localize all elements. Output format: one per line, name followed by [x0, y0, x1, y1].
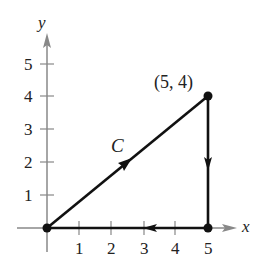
- plot-svg: [0, 0, 265, 267]
- vertex-5-4: [204, 92, 213, 101]
- y-tick-label: 3: [24, 121, 33, 138]
- y-axis: [40, 33, 54, 252]
- y-tick-label: 2: [24, 154, 33, 171]
- vertex-5-0: [204, 224, 213, 233]
- vertex-origin: [43, 224, 52, 233]
- x-axis-label: x: [242, 218, 250, 235]
- y-tick-label: 5: [24, 56, 33, 73]
- y-tick-label: 4: [24, 88, 33, 105]
- x-tick-label: 2: [107, 240, 116, 257]
- y-axis-label: y: [38, 14, 46, 31]
- curve-label: C: [111, 136, 124, 155]
- point-label: (5, 4): [154, 73, 193, 91]
- x-tick-label: 4: [171, 240, 180, 257]
- x-tick-label: 5: [204, 240, 213, 257]
- diagram-canvas: y x 1 2 3 4 5 1 2 3 4 5 C (5, 4): [0, 0, 265, 267]
- y-tick-label: 1: [24, 187, 33, 204]
- x-tick-label: 3: [140, 240, 149, 257]
- x-tick-label: 1: [75, 240, 84, 257]
